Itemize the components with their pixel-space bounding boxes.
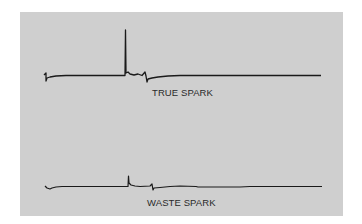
waste-spark-trace [45,176,322,190]
true-spark-trace [44,30,321,82]
ignition-waveforms [0,0,362,224]
waste-spark-label: WASTE SPARK [147,197,216,208]
true-spark-label: TRUE SPARK [152,87,213,98]
